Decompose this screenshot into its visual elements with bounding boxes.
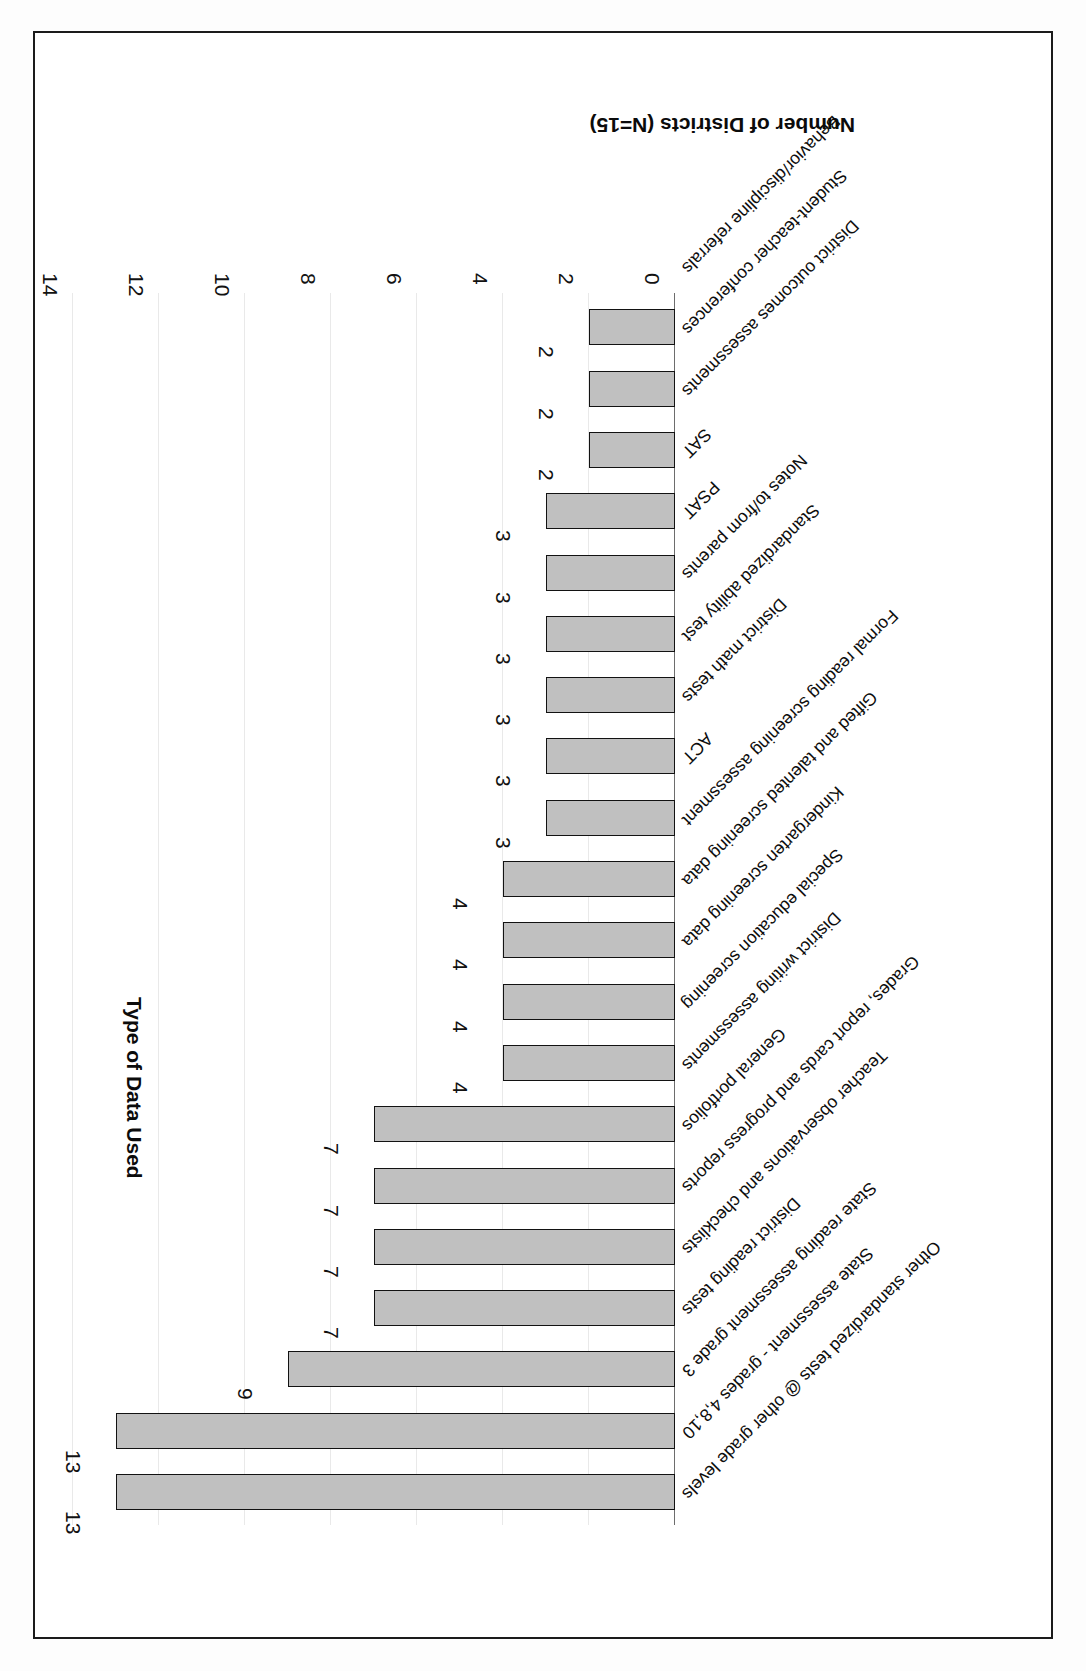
bar-value-label: 3 xyxy=(491,653,515,665)
bar xyxy=(288,1351,675,1387)
bar xyxy=(116,1474,675,1510)
bar-value-label: 4 xyxy=(448,1082,472,1094)
bar xyxy=(503,922,675,958)
value-tick-label: 12 xyxy=(124,273,148,296)
bar-row: 2 xyxy=(75,356,675,417)
bar-value-label: 13 xyxy=(61,1450,85,1473)
bar-row: 3 xyxy=(75,540,675,601)
bar-row: 2 xyxy=(75,418,675,479)
bar xyxy=(589,309,675,345)
figure-border: 1313977774444333333222 02468101214 Other… xyxy=(33,31,1053,1639)
value-tick-label: 6 xyxy=(382,273,406,285)
bar-row: 7 xyxy=(75,1092,675,1153)
bar-value-label: 2 xyxy=(534,408,558,420)
bar-value-label: 3 xyxy=(491,837,515,849)
category-axis-title: Type of Data Used xyxy=(122,997,146,1179)
bar-value-label: 2 xyxy=(534,469,558,481)
bar-row: 7 xyxy=(75,1153,675,1214)
bar-value-label: 3 xyxy=(491,775,515,787)
bar-row: 2 xyxy=(75,295,675,356)
bar-value-label: 4 xyxy=(448,898,472,910)
bar xyxy=(546,493,675,529)
bar xyxy=(546,677,675,713)
bar xyxy=(546,555,675,591)
bar-row: 3 xyxy=(75,724,675,785)
value-tick-label: 14 xyxy=(38,273,62,296)
bar xyxy=(503,984,675,1020)
bar xyxy=(116,1413,675,1449)
bar xyxy=(374,1290,675,1326)
bar xyxy=(374,1229,675,1265)
value-tick-label: 2 xyxy=(554,273,578,285)
value-tick-label: 10 xyxy=(210,273,234,296)
bar xyxy=(589,432,675,468)
bar-value-label: 7 xyxy=(319,1266,343,1278)
bar-value-label: 3 xyxy=(491,592,515,604)
bar xyxy=(374,1106,675,1142)
bar-row: 13 xyxy=(75,1460,675,1521)
bar-value-label: 7 xyxy=(319,1327,343,1339)
bar-row: 4 xyxy=(75,1031,675,1092)
bar-row: 13 xyxy=(75,1398,675,1459)
bar-row: 3 xyxy=(75,785,675,846)
bar-value-label: 7 xyxy=(319,1205,343,1217)
value-tick-label: 8 xyxy=(296,273,320,285)
bar-row: 7 xyxy=(75,1215,675,1276)
bar-value-label: 3 xyxy=(491,530,515,542)
rotated-figure-canvas: 1313977774444333333222 02468101214 Other… xyxy=(35,33,1051,1637)
bar xyxy=(503,1045,675,1081)
bar-value-label: 4 xyxy=(448,959,472,971)
bar-chart: 1313977774444333333222 02468101214 Other… xyxy=(35,33,1051,1637)
bar-series: 1313977774444333333222 xyxy=(75,295,675,1521)
bar xyxy=(503,861,675,897)
bar-value-label: 7 xyxy=(319,1143,343,1155)
bar-row: 9 xyxy=(75,1337,675,1398)
value-tick-label: 4 xyxy=(468,273,492,285)
bar-value-label: 13 xyxy=(61,1511,85,1534)
bar-row: 3 xyxy=(75,602,675,663)
bar-row: 3 xyxy=(75,663,675,724)
bar-value-label: 9 xyxy=(233,1388,257,1400)
bar xyxy=(546,800,675,836)
bar-value-label: 3 xyxy=(491,714,515,726)
bar-value-label: 2 xyxy=(534,346,558,358)
bar xyxy=(546,616,675,652)
bar xyxy=(374,1168,675,1204)
bar-row: 4 xyxy=(75,847,675,908)
gridline xyxy=(72,293,73,1525)
bar-row: 7 xyxy=(75,1276,675,1337)
value-axis-title: Number of Districts (N=15) xyxy=(590,113,855,137)
bar-row: 4 xyxy=(75,969,675,1030)
scanned-page: 1313977774444333333222 02468101214 Other… xyxy=(0,0,1086,1671)
value-tick-label: 0 xyxy=(640,273,664,285)
bar xyxy=(546,738,675,774)
bar xyxy=(589,371,675,407)
bar-value-label: 4 xyxy=(448,1021,472,1033)
bar-row: 4 xyxy=(75,908,675,969)
bar-row: 3 xyxy=(75,479,675,540)
